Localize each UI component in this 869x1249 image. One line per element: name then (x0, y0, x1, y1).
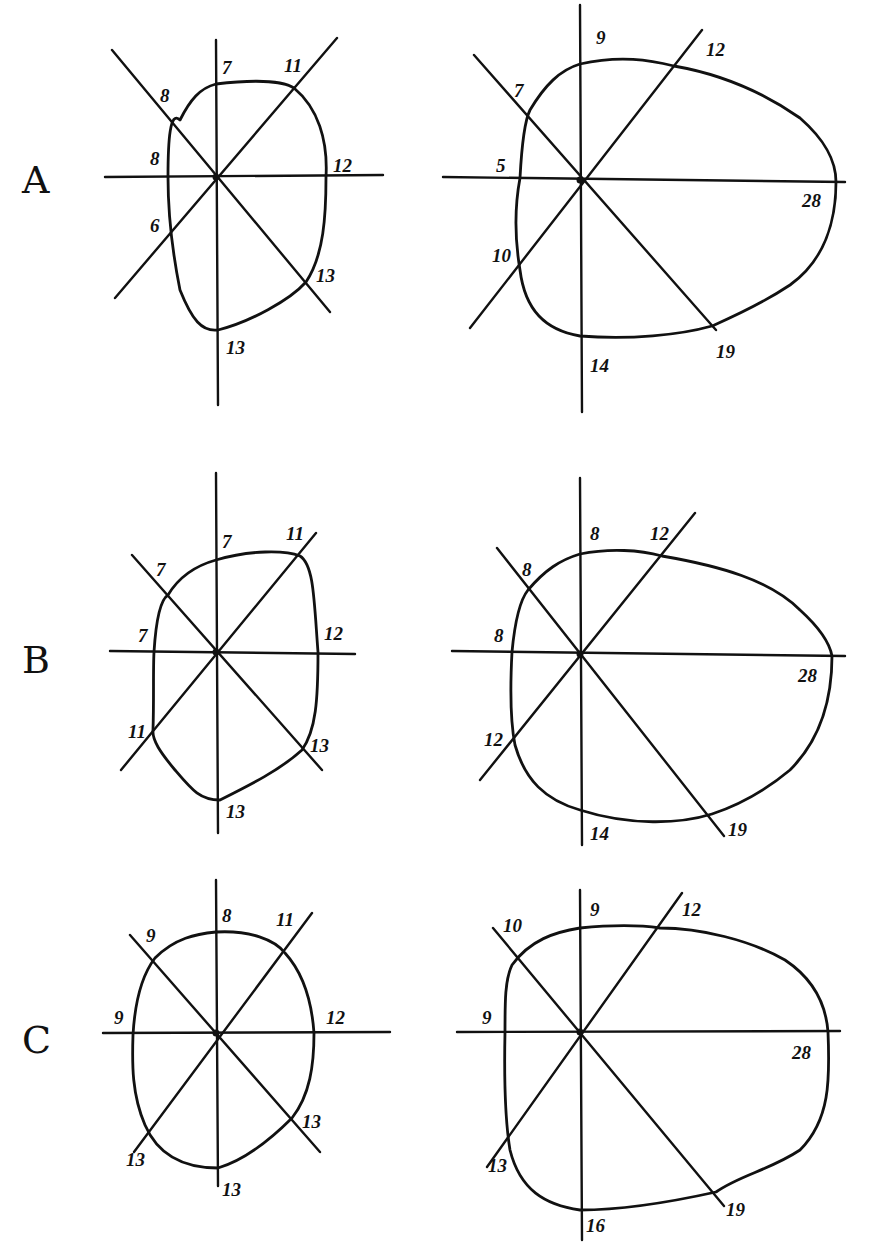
row-letter: B (22, 638, 50, 682)
panel-c-right: 91210928131916 (457, 890, 840, 1240)
measurement-label: 9 (114, 1007, 124, 1028)
contour-outline (505, 926, 829, 1210)
measurement-label: 11 (284, 55, 302, 76)
measurement-label: 13 (302, 1111, 321, 1132)
panel-c-left: 8119912131313 (103, 880, 390, 1200)
measurement-label: 12 (333, 155, 353, 176)
panel-a-right: 9127528101419 (443, 5, 845, 412)
measurement-label: 16 (586, 1215, 606, 1236)
measurement-label: 8 (590, 523, 600, 544)
contour-outline (168, 81, 326, 330)
contour-outline (133, 932, 314, 1168)
measurement-label: 9 (596, 27, 606, 48)
measurement-label: 8 (522, 559, 532, 580)
measurement-label: 9 (146, 925, 156, 946)
contour-outline (516, 59, 836, 337)
measurement-label: 11 (128, 721, 146, 742)
measurement-label: 8 (222, 905, 232, 926)
row-letter: C (22, 1018, 51, 1062)
panel-b-right: 8128828121419 (452, 478, 845, 845)
panel-b-left: 7117712111313 (110, 473, 355, 833)
measurement-label: 14 (590, 355, 609, 376)
measurement-label: 12 (326, 1007, 346, 1028)
axis-diag-down-line (493, 928, 724, 1206)
measurement-label: 9 (590, 899, 600, 920)
measurement-label: 10 (503, 915, 523, 936)
row-letter: A (21, 158, 50, 202)
measurement-label: 19 (716, 341, 736, 362)
measurement-label: 12 (324, 623, 344, 644)
measurement-label: 19 (728, 819, 748, 840)
measurement-label: 7 (514, 80, 525, 101)
figure-rows: A7118812613139127528101419B7117712111313… (21, 5, 845, 1240)
figure-canvas: A7118812613139127528101419B7117712111313… (0, 0, 869, 1249)
measurement-label: 7 (138, 625, 149, 646)
measurement-label: 11 (276, 909, 294, 930)
measurement-label: 28 (797, 665, 818, 686)
row-a: A7118812613139127528101419 (21, 5, 845, 412)
measurement-label: 14 (590, 823, 609, 844)
contour-outline (511, 550, 832, 821)
axis-vertical-line (216, 40, 218, 405)
measurement-label: 19 (726, 1199, 746, 1220)
measurement-label: 5 (496, 155, 506, 176)
contour-outline (153, 552, 318, 800)
center-point (577, 651, 584, 658)
measurement-label: 6 (150, 215, 160, 236)
center-point (213, 649, 220, 656)
axis-diag-down-line (132, 555, 322, 770)
row-b: B71177121113138128828121419 (22, 473, 845, 845)
panel-a-left: 711881261313 (105, 38, 383, 405)
axis-vertical-line (580, 478, 582, 845)
measurement-label: 12 (650, 523, 670, 544)
measurement-label: 10 (492, 245, 512, 266)
measurement-label: 8 (150, 148, 160, 169)
measurement-label: 7 (156, 559, 167, 580)
axis-horizontal-line (443, 177, 845, 182)
axis-diag-down-line (497, 548, 724, 836)
axis-horizontal-line (457, 1031, 840, 1032)
axis-vertical-line (580, 890, 582, 1240)
measurement-label: 13 (226, 337, 245, 358)
axis-diag-down-line (474, 55, 716, 330)
measurement-label: 11 (286, 523, 304, 544)
measurement-label: 13 (222, 1179, 241, 1200)
measurement-label: 7 (222, 57, 233, 78)
measurement-label: 8 (494, 625, 504, 646)
center-point (213, 174, 220, 181)
axis-vertical-line (580, 5, 582, 412)
measurement-label: 9 (482, 1007, 492, 1028)
measurement-label: 12 (484, 729, 504, 750)
measurement-label: 7 (222, 531, 233, 552)
measurement-label: 13 (310, 735, 329, 756)
measurement-label: 13 (488, 1155, 507, 1176)
measurement-label: 28 (801, 190, 822, 211)
measurement-label: 8 (160, 85, 170, 106)
measurement-label: 28 (791, 1042, 812, 1063)
measurement-label: 13 (316, 265, 335, 286)
measurement-label: 13 (126, 1149, 145, 1170)
measurement-label: 12 (682, 899, 702, 920)
measurement-label: 12 (706, 39, 726, 60)
row-c: C811991213131391210928131916 (22, 880, 840, 1240)
measurement-label: 13 (226, 801, 245, 822)
center-point (577, 1029, 584, 1036)
center-point (577, 177, 584, 184)
axis-horizontal-line (103, 1032, 390, 1033)
center-point (213, 1030, 220, 1037)
